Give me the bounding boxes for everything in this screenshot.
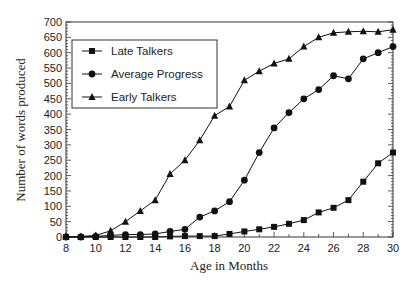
data-point (390, 150, 396, 156)
data-point (271, 125, 278, 132)
x-tick-label: 26 (327, 242, 339, 254)
data-point (226, 198, 233, 205)
data-point (241, 76, 248, 83)
data-point (360, 55, 367, 62)
data-point (107, 227, 114, 234)
data-point (300, 43, 307, 50)
data-point (182, 226, 189, 233)
data-point (345, 197, 351, 203)
y-tick-label: 300 (44, 139, 62, 151)
data-point (286, 221, 292, 227)
y-axis-label: Number of words produced (13, 58, 28, 202)
data-point (122, 231, 129, 238)
y-tick-label: 500 (44, 77, 62, 89)
data-point (300, 95, 307, 102)
x-tick-label: 12 (119, 242, 131, 254)
y-tick-label: 450 (44, 93, 62, 105)
x-tick-label: 22 (268, 242, 280, 254)
data-point (152, 231, 159, 238)
data-point (360, 27, 367, 34)
y-tick-label: 600 (44, 47, 62, 59)
data-point (345, 75, 352, 82)
y-tick-label: 50 (50, 216, 62, 228)
x-tick-label: 10 (90, 242, 102, 254)
y-tick-label: 550 (44, 62, 62, 74)
x-tick-label: 8 (63, 242, 69, 254)
y-tick-label: 150 (44, 185, 62, 197)
data-point (315, 86, 322, 93)
square-marker-icon (89, 48, 95, 54)
data-point (286, 109, 293, 116)
x-tick-label: 14 (149, 242, 161, 254)
y-tick-label: 250 (44, 154, 62, 166)
data-point (360, 179, 366, 185)
data-point (211, 207, 218, 214)
x-tick-label: 28 (357, 242, 369, 254)
data-point (256, 67, 263, 74)
x-tick-label: 20 (238, 242, 250, 254)
data-point (227, 231, 233, 237)
data-point (301, 217, 307, 223)
data-point (241, 177, 248, 184)
y-tick-label: 650 (44, 31, 62, 43)
data-point (137, 207, 144, 214)
data-point (196, 136, 203, 143)
data-point (285, 55, 292, 62)
data-point (330, 72, 337, 79)
legend: Late TalkersAverage ProgressEarly Talker… (72, 40, 217, 108)
data-point (152, 196, 159, 203)
y-tick-label: 0 (56, 231, 62, 243)
data-point (375, 49, 382, 56)
y-tick-label: 100 (44, 200, 62, 212)
data-point (316, 209, 322, 215)
x-tick-label: 24 (298, 242, 310, 254)
x-tick-label: 18 (209, 242, 221, 254)
data-point (241, 228, 247, 234)
series-line (66, 153, 393, 237)
data-point (331, 205, 337, 211)
data-point (256, 149, 263, 156)
data-point (197, 233, 203, 239)
data-point (211, 112, 218, 119)
data-point (182, 233, 188, 239)
y-tick-label: 400 (44, 108, 62, 120)
x-tick-label: 30 (387, 242, 399, 254)
legend-label: Average Progress (111, 68, 203, 80)
data-point (375, 160, 381, 166)
y-tick-label: 350 (44, 124, 62, 136)
y-tick-label: 700 (44, 16, 62, 28)
x-tick-label: 16 (179, 242, 191, 254)
legend-label: Early Talkers (111, 91, 177, 103)
data-point (122, 218, 129, 225)
data-point (226, 102, 233, 109)
circle-marker-icon (89, 71, 96, 78)
y-tick-label: 200 (44, 170, 62, 182)
x-axis-label: Age in Months (190, 258, 268, 273)
data-point (167, 228, 174, 235)
data-point (137, 231, 144, 238)
line-chart: 0501001502002503003504004505005506006507… (0, 0, 411, 282)
series-late-talkers (63, 150, 396, 240)
data-point (256, 226, 262, 232)
data-point (389, 26, 396, 33)
data-point (212, 233, 218, 239)
data-point (271, 224, 277, 230)
data-point (196, 214, 203, 221)
data-point (390, 43, 397, 50)
legend-label: Late Talkers (111, 45, 173, 57)
